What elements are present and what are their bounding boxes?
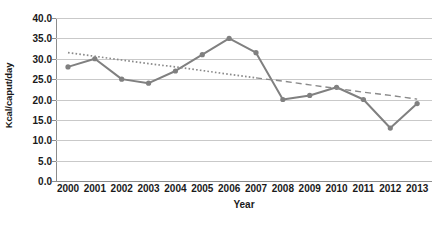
x-axis-tick-label: 2013 bbox=[406, 183, 428, 194]
x-axis-tick-label: 2012 bbox=[379, 183, 401, 194]
line-chart: Kcal/caput/day 0.05.010.015.020.025.030.… bbox=[0, 0, 440, 227]
data-point-marker bbox=[173, 68, 178, 73]
y-axis-tick-label: 35.0 bbox=[33, 33, 52, 44]
data-point-marker bbox=[119, 77, 124, 82]
data-point-marker bbox=[307, 93, 312, 98]
y-axis-tick-label: 10.0 bbox=[33, 135, 52, 146]
y-axis-tick-label: 25.0 bbox=[33, 74, 52, 85]
data-point-marker bbox=[415, 101, 420, 106]
y-axis-tick-label: 40.0 bbox=[33, 13, 52, 24]
y-axis-tick-label: 30.0 bbox=[33, 53, 52, 64]
x-axis-tick-label: 2000 bbox=[57, 183, 79, 194]
trendline bbox=[68, 53, 256, 78]
x-axis-tick-label: 2004 bbox=[164, 183, 186, 194]
gridline bbox=[56, 181, 432, 182]
data-point-marker bbox=[200, 52, 205, 57]
y-axis-tick-label: 0.0 bbox=[38, 176, 52, 187]
x-axis-tick-label: 2010 bbox=[325, 183, 347, 194]
y-axis-tick bbox=[52, 181, 56, 182]
y-axis-tick-labels: 0.05.010.015.020.025.030.035.040.0 bbox=[18, 0, 56, 190]
y-axis-tick-label: 15.0 bbox=[33, 114, 52, 125]
data-point-marker bbox=[65, 64, 70, 69]
y-axis-title: Kcal/caput/day bbox=[0, 0, 18, 190]
x-axis-tick-label: 2002 bbox=[111, 183, 133, 194]
x-axis-tick-label: 2008 bbox=[272, 183, 294, 194]
y-axis-title-label: Kcal/caput/day bbox=[4, 62, 15, 128]
data-point-marker bbox=[227, 36, 232, 41]
y-axis-tick-label: 20.0 bbox=[33, 94, 52, 105]
data-point-marker bbox=[280, 97, 285, 102]
x-axis-tick-label: 2005 bbox=[191, 183, 213, 194]
x-axis-title: Year bbox=[56, 199, 432, 210]
x-axis-tick-label: 2006 bbox=[218, 183, 240, 194]
x-axis-tick-labels: 2000200120022003200420052006200720082009… bbox=[56, 183, 432, 199]
x-axis-tick-label: 2009 bbox=[299, 183, 321, 194]
x-axis-tick-label: 2001 bbox=[84, 183, 106, 194]
y-axis-tick-label: 5.0 bbox=[38, 155, 52, 166]
data-point-marker bbox=[388, 125, 393, 130]
plot-area bbox=[56, 18, 432, 181]
series-layer bbox=[56, 18, 432, 181]
series-line bbox=[68, 38, 417, 128]
data-point-marker bbox=[253, 50, 258, 55]
data-point-marker bbox=[361, 97, 366, 102]
x-axis-tick-label: 2003 bbox=[137, 183, 159, 194]
data-point-marker bbox=[146, 81, 151, 86]
x-axis-tick-label: 2007 bbox=[245, 183, 267, 194]
x-axis-tick-label: 2011 bbox=[353, 183, 375, 194]
